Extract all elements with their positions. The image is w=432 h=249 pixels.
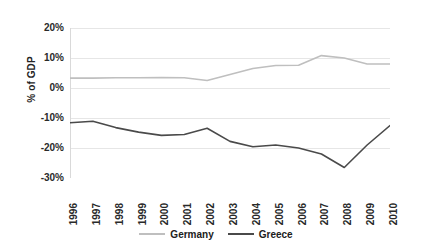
chart-container: % of GDP 20%10%0%-10%-20%-30% 1996199719… <box>0 0 432 249</box>
legend-swatch-germany <box>139 233 165 235</box>
y-tick-label: -20% <box>20 143 64 153</box>
legend-label: Germany <box>170 229 213 240</box>
y-tick-label: -30% <box>20 173 64 183</box>
series-line-germany <box>70 56 390 81</box>
legend-label: Greece <box>259 229 293 240</box>
legend-swatch-greece <box>228 233 254 235</box>
plot-svg <box>70 28 390 178</box>
x-axis-tick-labels: 1996199719981999200020012002200320042005… <box>70 178 390 224</box>
gridlines <box>70 28 390 178</box>
chart-legend: GermanyGreece <box>0 226 432 242</box>
y-tick-label: 0% <box>20 83 64 93</box>
y-tick-label: 10% <box>20 53 64 63</box>
legend-entry-greece[interactable]: Greece <box>228 229 293 240</box>
axis-lines <box>70 28 390 178</box>
legend-entry-germany[interactable]: Germany <box>139 229 213 240</box>
plot-area <box>70 28 390 178</box>
y-tick-label: -10% <box>20 113 64 123</box>
series-lines <box>70 56 390 168</box>
y-axis-tick-labels: 20%10%0%-10%-20%-30% <box>18 0 64 249</box>
series-line-greece <box>70 121 390 167</box>
y-tick-label: 20% <box>20 23 64 33</box>
